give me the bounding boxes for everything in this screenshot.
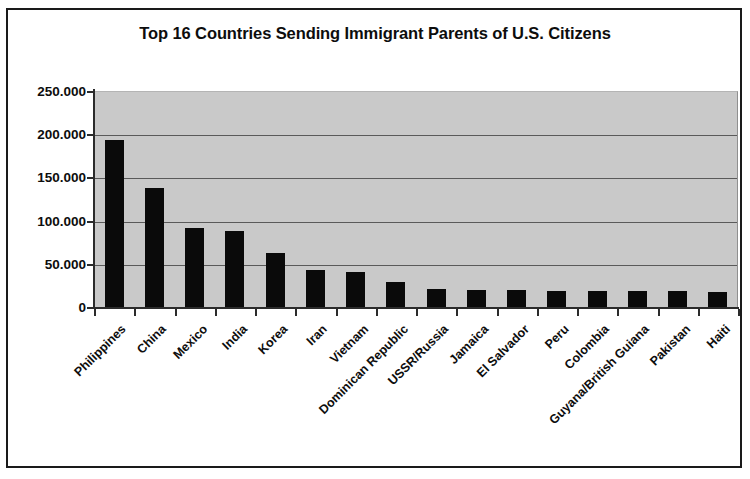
x-axis-tick-mark (94, 309, 96, 316)
bar[interactable] (386, 282, 405, 307)
bar[interactable] (346, 272, 365, 307)
bar[interactable] (145, 188, 164, 307)
bar[interactable] (266, 253, 285, 307)
y-axis-tick-label: 100.000 (0, 213, 86, 228)
y-axis-tick-mark (87, 307, 94, 309)
bar[interactable] (668, 291, 687, 307)
x-axis-tick-mark (738, 309, 740, 316)
bar[interactable] (547, 291, 566, 307)
bar[interactable] (467, 290, 486, 307)
bar[interactable] (588, 291, 607, 307)
y-axis-tick-mark (87, 221, 94, 223)
x-axis-tick-mark (456, 309, 458, 316)
x-axis-tick-mark (255, 309, 257, 316)
bar[interactable] (105, 140, 124, 307)
chart-page: Top 16 Countries Sending Immigrant Paren… (0, 0, 750, 479)
x-axis-tick-mark (658, 309, 660, 316)
y-axis-tick-mark (87, 91, 94, 93)
x-axis-tick-mark (537, 309, 539, 316)
y-axis-tick-label: 250.000 (0, 84, 86, 99)
y-axis-tick-label: 0 (0, 300, 86, 315)
x-axis-tick-mark (577, 309, 579, 316)
bar[interactable] (507, 290, 526, 307)
bar[interactable] (225, 231, 244, 307)
bar[interactable] (427, 289, 446, 307)
y-axis-tick-label: 50.000 (0, 256, 86, 271)
x-axis-tick-mark (336, 309, 338, 316)
y-axis-tick-mark (87, 264, 94, 266)
x-axis-tick-mark (175, 309, 177, 316)
y-axis-tick-mark (87, 134, 94, 136)
y-axis-tick-mark (87, 177, 94, 179)
y-axis-tick-labels: 050.000100.000150.000200.000250.000 (0, 0, 86, 479)
x-axis-tick-mark (617, 309, 619, 316)
x-axis-tick-mark (497, 309, 499, 316)
bar[interactable] (306, 270, 325, 307)
bar[interactable] (628, 291, 647, 307)
page-title: Top 16 Countries Sending Immigrant Paren… (0, 24, 750, 43)
bar[interactable] (708, 292, 727, 307)
x-axis-tick-mark (215, 309, 217, 316)
x-axis-tick-mark (134, 309, 136, 316)
bar[interactable] (185, 228, 204, 307)
x-axis-tick-mark (295, 309, 297, 316)
y-axis-tick-label: 200.000 (0, 127, 86, 142)
x-axis-tick-mark (416, 309, 418, 316)
bar-series (94, 91, 738, 307)
y-axis-tick-label: 150.000 (0, 170, 86, 185)
x-axis-tick-mark (698, 309, 700, 316)
x-axis-tick-mark (376, 309, 378, 316)
